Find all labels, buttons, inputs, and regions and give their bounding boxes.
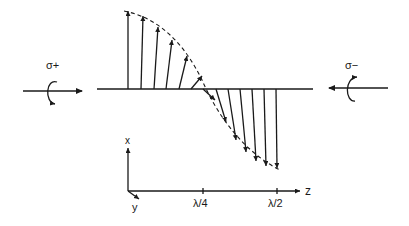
y-axis-label: y — [132, 201, 138, 213]
tick-label-lambda-half: λ/2 — [268, 197, 283, 209]
field-vector-arrow-icon — [264, 89, 266, 166]
field-vector-arrow-icon — [216, 89, 226, 122]
field-vector-arrow-icon — [141, 16, 143, 89]
field-vectors-up — [128, 11, 202, 89]
left-beam-sigma-plus: σ+ — [23, 59, 82, 104]
sigma-minus-label: σ− — [345, 59, 358, 71]
field-vector-arrow-icon — [228, 89, 236, 140]
sigma-plus-label: σ+ — [46, 59, 59, 71]
y-axis-arrow-icon — [128, 191, 139, 199]
polarization-diagram: σ+ σ− x z y λ/4 — [0, 0, 409, 226]
x-axis-label: x — [125, 135, 130, 146]
rotation-arrow-icon — [347, 77, 357, 101]
field-vector-arrow-icon — [179, 56, 187, 89]
field-vector-arrow-icon — [166, 40, 172, 89]
field-vector-arrow-icon — [203, 89, 215, 100]
field-vector-arrow-icon — [154, 27, 158, 89]
tick-label-lambda-quarter: λ/4 — [193, 197, 208, 209]
field-envelope — [124, 11, 280, 170]
field-vectors-down — [203, 89, 277, 168]
field-vector-arrow-icon — [191, 76, 202, 89]
coordinate-axes: x z y λ/4 λ/2 — [125, 135, 311, 213]
z-axis-label: z — [305, 184, 311, 198]
rotation-arrow-icon — [48, 82, 57, 104]
field-vector-arrow-icon — [276, 89, 277, 168]
right-beam-sigma-minus: σ− — [329, 59, 388, 101]
field-vector-arrow-icon — [252, 89, 256, 161]
